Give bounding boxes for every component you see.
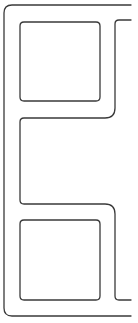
bottom-box <box>20 220 100 300</box>
top-box <box>20 22 100 101</box>
diagram-svg <box>0 0 138 323</box>
right-connector-top <box>20 20 131 300</box>
wireframe-diagram <box>0 0 138 323</box>
outer-frame <box>4 5 131 316</box>
